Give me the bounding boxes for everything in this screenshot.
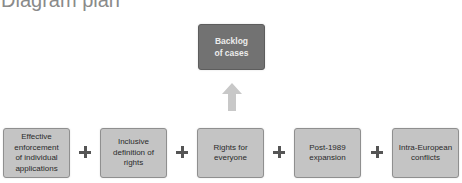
cause-line: conflicts [399,153,452,164]
plus-icon [79,146,91,158]
result-label-line1: Backlog [214,35,248,47]
cause-line: applications [14,164,58,175]
arrow-up-icon [222,83,242,111]
cause-line: Inclusive [113,137,154,148]
diagram-title: Diagram plan [1,0,120,11]
cause-box-effective-enforcement: Effective enforcement of individual appl… [3,128,70,178]
cause-box-inclusive-definition: Inclusive definition of rights [100,128,167,178]
cause-line: enforcement [14,143,58,154]
cause-line: Rights for [213,143,247,154]
cause-box-post-1989-expansion: Post-1989 expansion [294,128,361,178]
cause-line: rights [113,158,154,169]
cause-line: Intra-European [399,143,452,154]
result-box-backlog: Backlog of cases [198,24,265,70]
cause-line: Post-1989 [309,143,345,154]
result-label-line2: of cases [214,47,248,59]
cause-line: definition of [113,148,154,159]
plus-icon [371,146,383,158]
cause-line: of individual [14,153,58,164]
cause-box-intra-european-conflicts: Intra-European conflicts [392,128,459,178]
plus-icon [176,146,188,158]
cause-line: Effective [14,132,58,143]
plus-icon [273,146,285,158]
cause-line: everyone [213,153,247,164]
cause-line: expansion [309,153,345,164]
cause-box-rights-for-everyone: Rights for everyone [197,128,264,178]
